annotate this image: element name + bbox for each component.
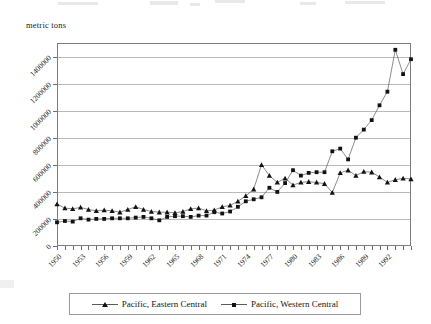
square-marker-icon	[118, 216, 122, 220]
square-marker-icon	[275, 190, 279, 194]
x-axis-tick	[230, 246, 231, 250]
square-marker-icon	[110, 216, 114, 220]
triangle-marker-icon	[180, 209, 185, 214]
triangle-marker-icon	[133, 204, 138, 209]
x-axis-tick	[395, 246, 396, 250]
triangle-marker-icon	[102, 208, 107, 213]
triangle-marker-icon	[385, 180, 390, 185]
triangle-marker-icon	[196, 206, 201, 211]
x-axis-tick	[183, 246, 184, 250]
square-marker-icon	[409, 57, 413, 61]
x-axis-tick	[309, 246, 310, 250]
x-axis-tick	[411, 246, 412, 250]
legend-label: Pacific, Western Central	[251, 299, 338, 309]
square-marker-icon	[393, 48, 397, 52]
x-axis-tick	[364, 246, 365, 250]
x-axis-tick	[104, 246, 105, 250]
x-axis-tick	[199, 246, 200, 250]
square-marker-icon	[220, 212, 224, 216]
x-axis-tick	[222, 246, 223, 250]
triangle-marker-icon	[54, 201, 59, 206]
x-axis-tick	[332, 246, 333, 250]
x-axis-tick	[356, 246, 357, 250]
x-axis-tick	[159, 246, 160, 250]
square-marker-icon	[260, 195, 264, 199]
triangle-marker-icon	[228, 203, 233, 208]
square-marker-icon	[63, 219, 67, 223]
square-marker-icon	[236, 205, 240, 209]
square-marker-icon	[244, 199, 248, 203]
triangle-marker-icon	[141, 207, 146, 212]
x-axis-tick	[403, 246, 404, 250]
square-marker-icon	[189, 215, 193, 219]
square-marker-icon	[165, 215, 169, 219]
legend-item-pacific-western-central[interactable]: Pacific, Western Central	[221, 299, 338, 309]
square-marker-icon	[197, 214, 201, 218]
x-axis-tick	[57, 246, 58, 250]
square-marker-icon	[228, 210, 232, 214]
x-axis-tick	[136, 246, 137, 250]
x-axis-tick	[120, 246, 121, 250]
x-axis-tick	[340, 246, 341, 250]
x-axis-tick	[317, 246, 318, 250]
square-marker-icon	[150, 216, 154, 220]
square-marker-icon	[370, 118, 374, 122]
x-axis-tick	[269, 246, 270, 250]
triangle-marker-icon	[259, 162, 264, 167]
x-axis-tick	[387, 246, 388, 250]
x-axis-tick	[293, 246, 294, 250]
triangle-marker-icon	[338, 170, 343, 175]
x-axis-tick	[81, 246, 82, 250]
square-marker-icon	[291, 168, 295, 172]
square-marker-icon	[79, 216, 83, 220]
legend-item-pacific-eastern-central[interactable]: Pacific, Eastern Central	[92, 299, 207, 309]
square-marker-icon	[338, 147, 342, 151]
x-axis-tick	[88, 246, 89, 250]
x-axis-tick	[277, 246, 278, 250]
triangle-marker-icon	[306, 179, 311, 184]
y-axis-tick	[53, 111, 57, 112]
square-marker-icon	[212, 210, 216, 214]
square-marker-icon	[323, 170, 327, 174]
y-axis-tick	[53, 192, 57, 193]
legend-label: Pacific, Eastern Central	[122, 299, 207, 309]
square-marker-icon	[55, 220, 59, 224]
triangle-marker-icon	[78, 205, 83, 210]
square-marker-icon	[378, 103, 382, 107]
y-axis-tick	[53, 165, 57, 166]
y-axis-tick	[53, 84, 57, 85]
square-marker-icon	[102, 217, 106, 221]
x-axis-tick	[380, 246, 381, 250]
y-axis-tick	[53, 219, 57, 220]
square-marker-icon	[71, 220, 75, 224]
x-axis-tick	[191, 246, 192, 250]
x-axis-tick	[65, 246, 66, 250]
x-axis-tick	[128, 246, 129, 250]
square-marker-icon	[346, 158, 350, 162]
square-marker-icon	[354, 136, 358, 140]
chart-figure: metric tons Pacific, Eastern Central Pac…	[0, 0, 431, 324]
triangle-marker-icon	[377, 174, 382, 179]
square-marker-icon	[94, 217, 98, 221]
triangle-marker-icon	[267, 173, 272, 178]
x-axis-tick	[348, 246, 349, 250]
square-marker-icon	[362, 128, 366, 132]
x-axis-tick	[324, 246, 325, 250]
y-axis-tick	[53, 57, 57, 58]
square-marker-icon	[181, 214, 185, 218]
x-axis-tick	[301, 246, 302, 250]
x-axis-tick	[246, 246, 247, 250]
square-marker-icon	[126, 216, 130, 220]
square-marker-icon	[157, 218, 161, 222]
square-marker-icon	[315, 170, 319, 174]
x-axis-tick	[96, 246, 97, 250]
square-marker-icon	[307, 171, 311, 175]
x-axis-tick	[262, 246, 263, 250]
x-axis-tick	[112, 246, 113, 250]
triangle-marker-icon	[235, 199, 240, 204]
triangle-marker-icon	[62, 206, 67, 211]
square-marker-icon	[283, 181, 287, 185]
triangle-marker-icon	[92, 300, 118, 309]
square-marker-icon	[401, 72, 405, 76]
x-axis-tick	[285, 246, 286, 250]
